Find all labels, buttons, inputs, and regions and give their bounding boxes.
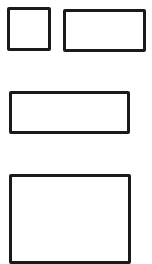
rectangle-wide-top [63,9,146,52]
rectangle-wide-middle [9,91,130,134]
rectangle-large-bottom [9,174,131,264]
rectangle-small-square [7,7,51,51]
